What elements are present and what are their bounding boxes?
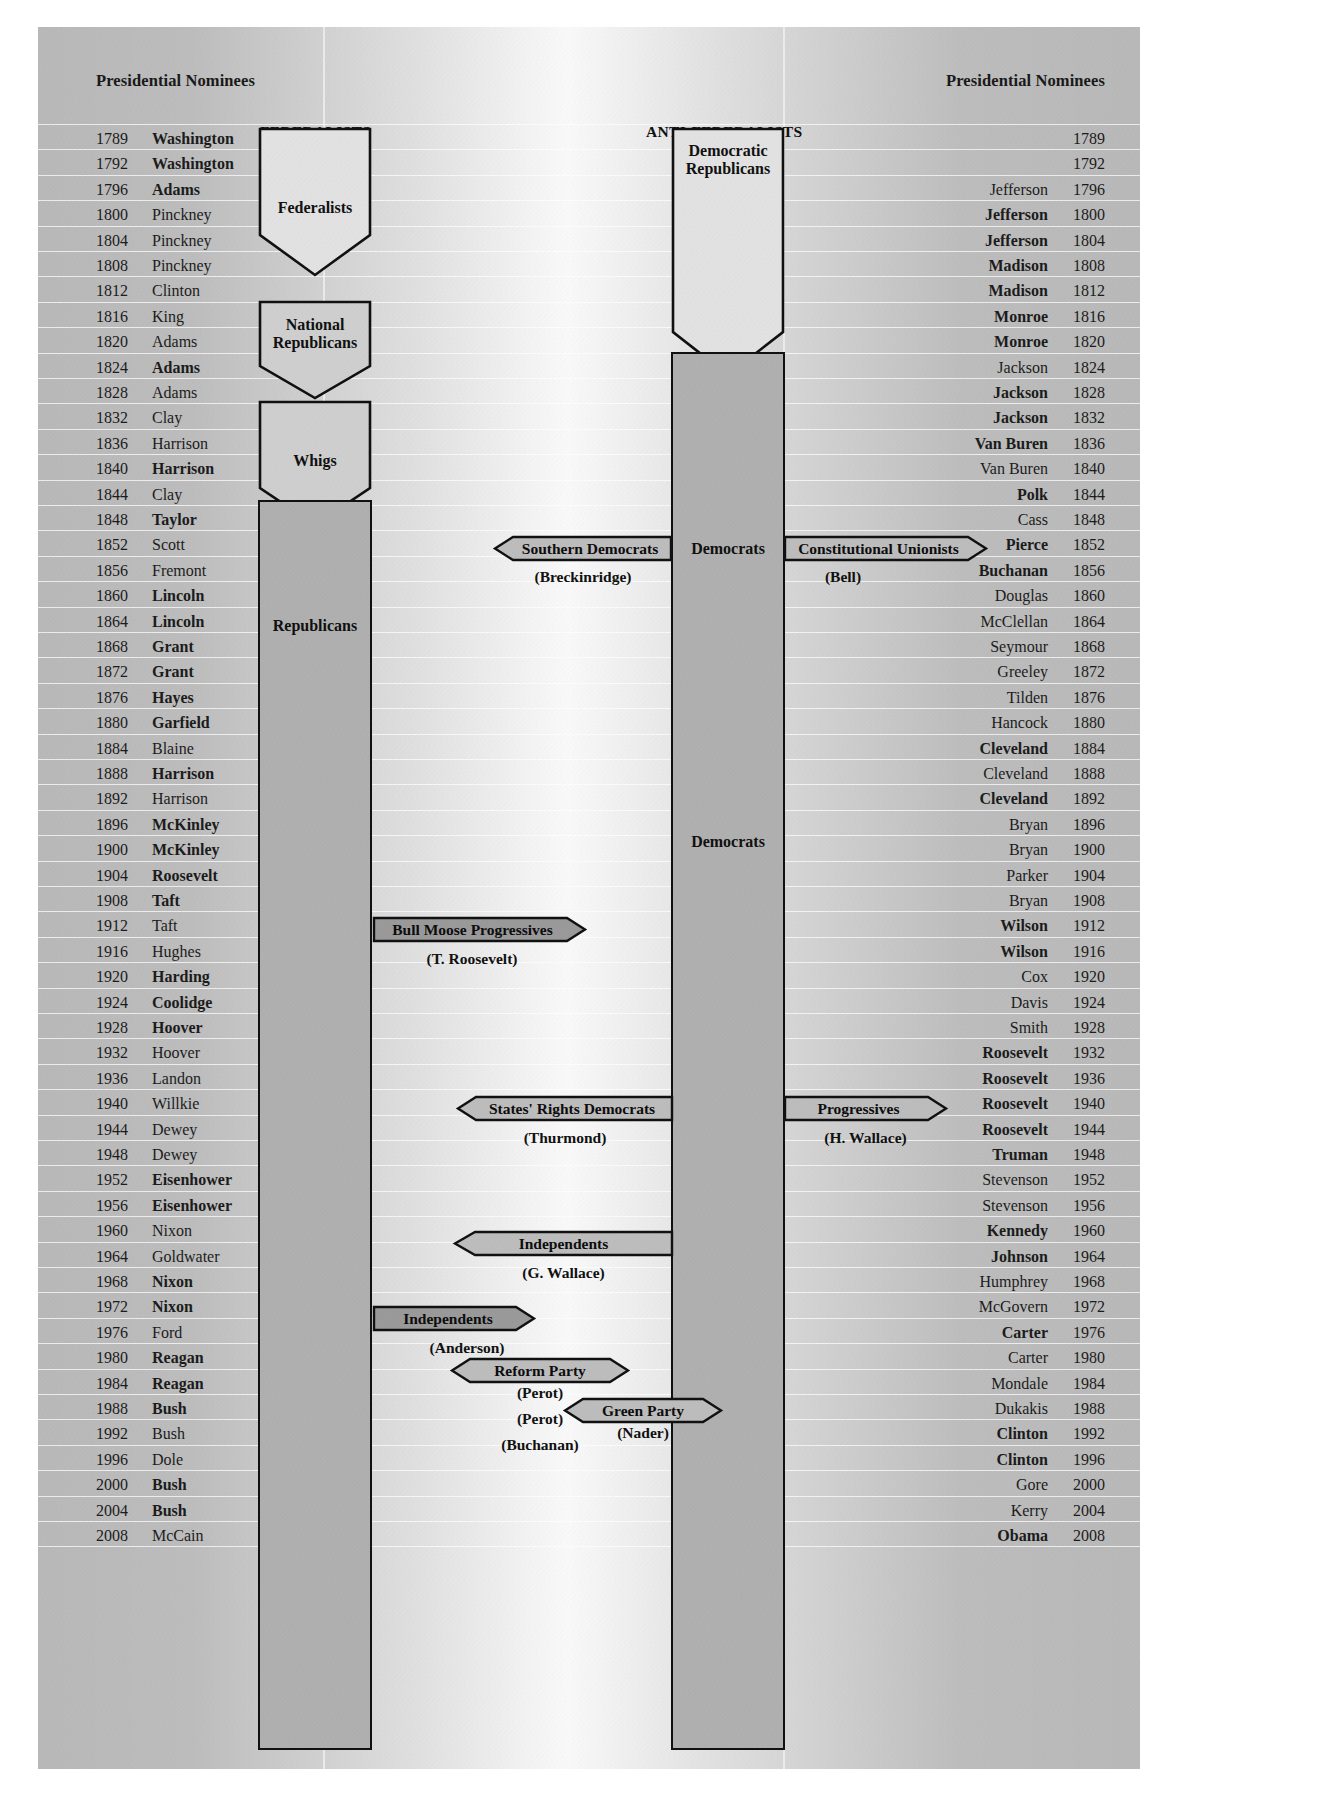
nominee-right-1824: Jackson: [997, 355, 1048, 380]
row-separator: [38, 708, 1140, 709]
nominee-left-1916: Hughes: [152, 939, 201, 964]
year-left-1900: 1900: [96, 837, 144, 862]
year-right-1868: 1868: [1057, 634, 1105, 659]
nominee-right-1900: Bryan: [1009, 837, 1048, 862]
year-left-1964: 1964: [96, 1244, 144, 1269]
year-left-1892: 1892: [96, 786, 144, 811]
nominee-left-1888: Harrison: [152, 761, 214, 786]
year-right-1880: 1880: [1057, 710, 1105, 735]
nominee-left-1804: Pinckney: [152, 228, 212, 253]
third-party-reform-party: Reform Party: [450, 1357, 630, 1384]
nominee-left-1932: Hoover: [152, 1040, 200, 1065]
year-right-1888: 1888: [1057, 761, 1105, 786]
nominee-right-2004: Kerry: [1011, 1498, 1048, 1523]
nominee-right-1920: Cox: [1021, 964, 1048, 989]
row-separator: [38, 1470, 1140, 1471]
nominee-left-1828: Adams: [152, 380, 197, 405]
year-left-1944: 1944: [96, 1117, 144, 1142]
nominee-left-1812: Clinton: [152, 278, 200, 303]
year-right-1832: 1832: [1057, 405, 1105, 430]
third-party-candidate-anderson: (Anderson): [372, 1339, 562, 1357]
nominee-left-1864: Lincoln: [152, 609, 204, 634]
nominee-right-1816: Monroe: [994, 304, 1048, 329]
nominee-left-1924: Coolidge: [152, 990, 212, 1015]
year-right-2000: 2000: [1057, 1472, 1105, 1497]
year-left-1876: 1876: [96, 685, 144, 710]
year-right-1964: 1964: [1057, 1244, 1105, 1269]
party-block-national-republicans: National Republicans: [258, 300, 372, 400]
nominee-right-1872: Greeley: [997, 659, 1048, 684]
third-party-label-progressives: Progressives: [783, 1095, 948, 1122]
row-separator: [38, 1165, 1140, 1166]
label-democrats-1908: Democrats: [671, 833, 785, 851]
row-separator: [38, 1496, 1140, 1497]
third-party-southern-democrats: Southern Democrats: [493, 535, 673, 562]
year-right-1872: 1872: [1057, 659, 1105, 684]
nominee-right-1904: Parker: [1006, 863, 1048, 888]
row-separator: [38, 937, 1140, 938]
third-party-green-party: Green Party: [563, 1397, 723, 1424]
year-right-2004: 2004: [1057, 1498, 1105, 1523]
nominee-right-1964: Johnson: [991, 1244, 1048, 1269]
nominee-left-1940: Willkie: [152, 1091, 199, 1116]
year-left-1996: 1996: [96, 1447, 144, 1472]
year-right-1804: 1804: [1057, 228, 1105, 253]
row-separator: [38, 911, 1140, 912]
third-party-label-southern-democrats: Southern Democrats: [493, 535, 673, 562]
year-left-1856: 1856: [96, 558, 144, 583]
year-right-1980: 1980: [1057, 1345, 1105, 1370]
party-label-federalists: Federalists: [258, 199, 372, 217]
year-left-1924: 1924: [96, 990, 144, 1015]
year-right-1944: 1944: [1057, 1117, 1105, 1142]
nominee-right-1880: Hancock: [991, 710, 1048, 735]
row-separator: [38, 302, 1140, 303]
year-left-1796: 1796: [96, 177, 144, 202]
year-left-1824: 1824: [96, 355, 144, 380]
party-block-democratic-republicans: Democratic Republicans: [671, 127, 785, 377]
year-right-1816: 1816: [1057, 304, 1105, 329]
nominee-right-1976: Carter: [1002, 1320, 1048, 1345]
nominee-right-1812: Madison: [988, 278, 1048, 303]
nominee-left-1904: Roosevelt: [152, 863, 218, 888]
year-right-1976: 1976: [1057, 1320, 1105, 1345]
nominee-right-1832: Jackson: [993, 405, 1048, 430]
nominee-left-1876: Hayes: [152, 685, 194, 710]
row-separator: [38, 1292, 1140, 1293]
nominee-right-1952: Stevenson: [982, 1167, 1048, 1192]
nominee-right-2008: Obama: [997, 1523, 1048, 1548]
year-left-1980: 1980: [96, 1345, 144, 1370]
year-right-1800: 1800: [1057, 202, 1105, 227]
nominee-left-1956: Eisenhower: [152, 1193, 232, 1218]
year-right-1792: 1792: [1057, 151, 1105, 176]
year-right-1988: 1988: [1057, 1396, 1105, 1421]
nominee-right-1828: Jackson: [993, 380, 1048, 405]
year-right-1808: 1808: [1057, 253, 1105, 278]
nominee-right-1848: Cass: [1018, 507, 1048, 532]
year-left-1888: 1888: [96, 761, 144, 786]
nominee-left-1848: Taylor: [152, 507, 197, 532]
year-right-1900: 1900: [1057, 837, 1105, 862]
nominee-left-2000: Bush: [152, 1472, 187, 1497]
nominee-right-1912: Wilson: [1000, 913, 1048, 938]
row-separator: [38, 353, 1140, 354]
nominee-right-1968: Humphrey: [980, 1269, 1048, 1294]
nominee-left-1960: Nixon: [152, 1218, 192, 1243]
row-separator: [38, 1089, 1140, 1090]
year-left-1832: 1832: [96, 405, 144, 430]
year-right-1924: 1924: [1057, 990, 1105, 1015]
third-party-candidate-h-wallace: (H. Wallace): [783, 1129, 948, 1147]
nominee-right-1996: Clinton: [996, 1447, 1048, 1472]
year-right-1920: 1920: [1057, 964, 1105, 989]
third-party-label-independents-anderson: Independents: [372, 1305, 536, 1332]
nominee-left-1984: Reagan: [152, 1371, 204, 1396]
nominee-right-1896: Bryan: [1009, 812, 1048, 837]
year-left-1928: 1928: [96, 1015, 144, 1040]
row-separator: [38, 327, 1140, 328]
third-party-bull-moose-progressives: Bull Moose Progressives: [372, 916, 587, 943]
row-separator: [38, 378, 1140, 379]
third-party-label-reform-party: Reform Party: [450, 1357, 630, 1384]
party-label-national-republicans-line1: National: [258, 316, 372, 334]
year-right-1996: 1996: [1057, 1447, 1105, 1472]
nominee-right-1852: Pierce: [1006, 532, 1048, 557]
year-left-1800: 1800: [96, 202, 144, 227]
